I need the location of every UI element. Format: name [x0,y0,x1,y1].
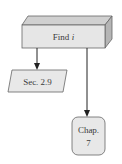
sec-node-label: Sec. 2.9 [23,77,52,87]
find-box-label: Find i [53,32,75,42]
chap-node-rounded-rect [72,117,105,155]
arrowhead-down-icon [84,110,90,117]
find-box-top-face [22,16,112,25]
flowchart-canvas: Find i Sec. 2.9 Chap. 7 [0,0,122,164]
arrowhead-down-icon [34,63,40,70]
chap-node-label-line2: 7 [86,138,91,148]
chap-node-label-line1: Chap. [78,125,99,135]
